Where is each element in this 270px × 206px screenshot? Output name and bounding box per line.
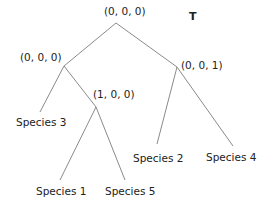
node-root-label: (0, 0, 0): [104, 6, 146, 17]
leaf-species3: Species 3: [16, 117, 66, 128]
tree-edges: [0, 0, 270, 206]
edge-left-species3: [40, 66, 64, 112]
leaf-species1: Species 1: [36, 186, 86, 197]
node-right-label: (0, 0, 1): [181, 60, 223, 71]
node-left-label: (0, 0, 0): [20, 52, 62, 63]
edge-right-species4: [177, 67, 233, 146]
edge-root-right: [116, 23, 177, 67]
edge-inner-species5: [96, 107, 125, 180]
edge-right-species2: [157, 67, 177, 144]
node-left-inner-label: (1, 0, 0): [93, 89, 135, 100]
edge-left-inner: [64, 66, 96, 107]
tree-title: T: [189, 10, 197, 23]
leaf-species4: Species 4: [206, 152, 256, 163]
leaf-species5: Species 5: [105, 186, 155, 197]
edge-root-left: [64, 23, 116, 66]
leaf-species2: Species 2: [133, 153, 183, 164]
